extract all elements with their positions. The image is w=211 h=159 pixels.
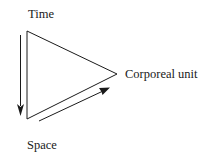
- time-arrow: [17, 35, 24, 116]
- space-arrow: [39, 88, 110, 122]
- space-arrow-shaft: [39, 92, 102, 122]
- time-label: Time: [28, 7, 54, 21]
- space-label: Space: [27, 138, 57, 152]
- arrow-up-right-icon: [99, 88, 110, 96]
- corporeal-unit-label: Corporeal unit: [125, 67, 198, 81]
